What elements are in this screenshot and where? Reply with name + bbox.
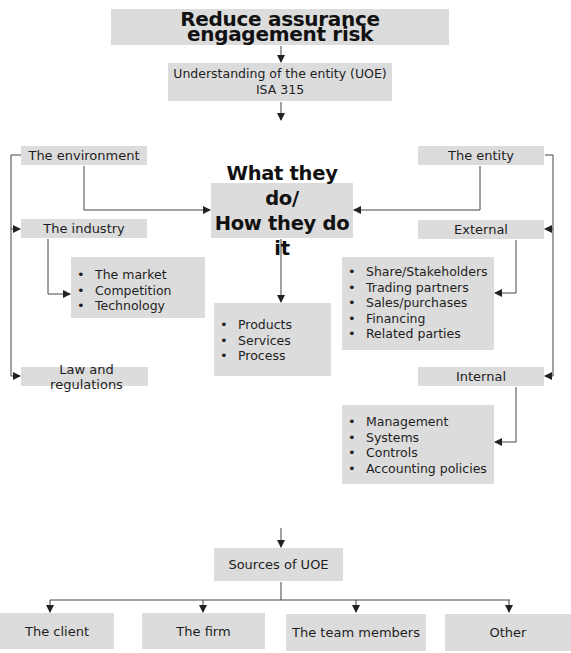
external-box: External <box>418 220 544 239</box>
list-item: Controls <box>342 445 487 461</box>
law-box: Law and regulations <box>21 367 148 386</box>
internal-list-box: Management Systems Controls Accounting p… <box>342 405 494 484</box>
list-item: The market <box>71 267 172 283</box>
source-firm-box: The firm <box>142 613 265 649</box>
external-label: External <box>454 222 508 237</box>
list-item: Process <box>214 348 292 364</box>
source-other-box: Other <box>445 614 571 651</box>
internal-box: Internal <box>418 367 544 386</box>
industry-label: The industry <box>43 221 125 236</box>
source-firm-label: The firm <box>176 624 230 639</box>
source-team-label: The team members <box>292 625 420 640</box>
internal-list: Management Systems Controls Accounting p… <box>342 414 487 476</box>
sources-label: Sources of UOE <box>228 557 328 572</box>
uoe-standard: ISA 315 <box>256 82 304 98</box>
list-item: Share/Stakeholders <box>342 264 488 280</box>
list-item: Related parties <box>342 326 488 342</box>
title-box: Reduce assurance engagement risk <box>111 9 449 45</box>
industry-box: The industry <box>21 219 147 238</box>
law-label: Law and regulations <box>25 362 148 392</box>
source-client-label: The client <box>25 624 89 639</box>
list-item: Accounting policies <box>342 461 487 477</box>
industry-list-box: The market Competition Technology <box>71 257 205 318</box>
center-line-2: How they do it <box>211 211 353 261</box>
products-list: Products Services Process <box>214 317 292 364</box>
sources-box: Sources of UOE <box>214 548 343 581</box>
list-item: Services <box>214 333 292 349</box>
list-item: Financing <box>342 311 488 327</box>
list-item: Competition <box>71 283 172 299</box>
external-list: Share/Stakeholders Trading partners Sale… <box>342 264 488 342</box>
uoe-box: Understanding of the entity (UOE) ISA 31… <box>168 63 392 101</box>
source-client-box: The client <box>0 613 114 649</box>
list-item: Management <box>342 414 487 430</box>
environment-label: The environment <box>28 148 139 163</box>
list-item: Products <box>214 317 292 333</box>
uoe-label: Understanding of the entity (UOE) <box>173 66 386 82</box>
entity-label: The entity <box>448 148 514 163</box>
center-box: What they do/ How they do it <box>211 183 353 238</box>
list-item: Systems <box>342 430 487 446</box>
source-team-box: The team members <box>286 614 426 651</box>
products-box: Products Services Process <box>214 303 331 376</box>
industry-list: The market Competition Technology <box>71 267 172 314</box>
list-item: Technology <box>71 298 172 314</box>
external-list-box: Share/Stakeholders Trading partners Sale… <box>342 257 494 350</box>
list-item: Trading partners <box>342 280 488 296</box>
entity-box: The entity <box>418 146 544 165</box>
diagram-title: Reduce assurance engagement risk <box>111 12 449 42</box>
internal-label: Internal <box>456 369 506 384</box>
environment-box: The environment <box>21 146 147 165</box>
center-line-1: What they do/ <box>211 161 353 211</box>
list-item: Sales/purchases <box>342 295 488 311</box>
source-other-label: Other <box>490 625 527 640</box>
